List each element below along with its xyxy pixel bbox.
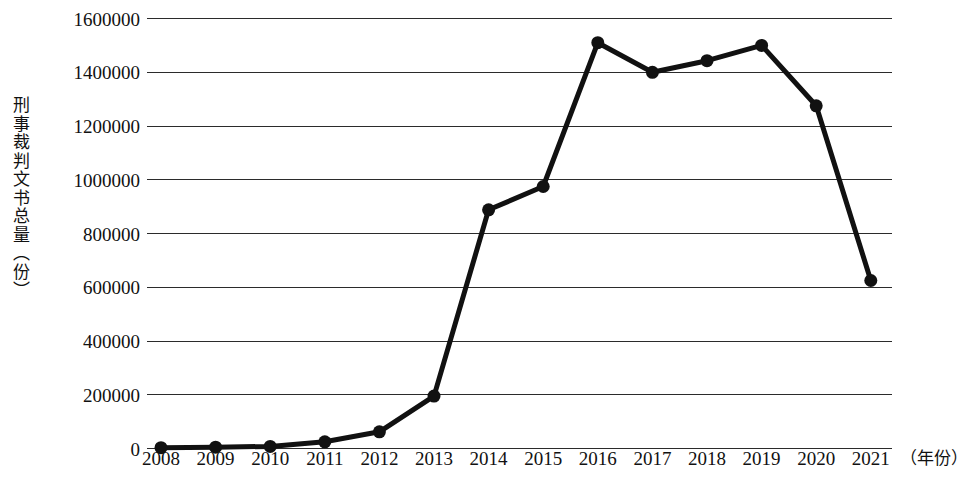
x-axis-title: （年份） bbox=[900, 450, 968, 467]
x-axis-tick-labels: 2008200920102011201220132014201520162017… bbox=[0, 0, 977, 482]
x-axis-tick-label: 2021 bbox=[836, 449, 906, 468]
line-chart: 刑事裁判文书总量（份） 0200000400000600000800000100… bbox=[0, 0, 977, 482]
